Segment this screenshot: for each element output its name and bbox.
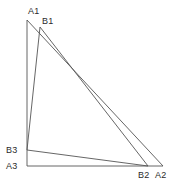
triangle-a — [27, 20, 163, 166]
vertex-label-a1: A1 — [28, 6, 39, 16]
vertex-label-a2: A2 — [155, 170, 166, 180]
edge-b1-b2 — [40, 27, 148, 166]
triangle-b — [27, 27, 148, 166]
vertex-label-a3: A3 — [6, 161, 17, 171]
edge-a1-a2 — [27, 20, 163, 166]
vertex-label-b1: B1 — [42, 16, 53, 26]
vertex-label-b2: B2 — [138, 170, 149, 180]
geometry-diagram: A1 B1 B3 A3 B2 A2 — [0, 0, 184, 193]
vertex-label-b3: B3 — [6, 145, 17, 155]
geometry-canvas — [0, 0, 184, 193]
edge-b2-b3 — [27, 150, 148, 166]
edge-b3-b1 — [27, 27, 40, 150]
